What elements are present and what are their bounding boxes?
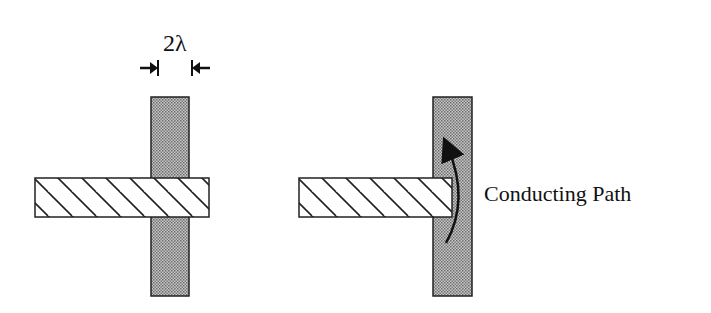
left-figure: [35, 60, 210, 296]
diagram-canvas: [0, 0, 711, 313]
right-horizontal-bar: [299, 178, 452, 217]
left-horizontal-bar: [35, 178, 209, 217]
right-figure: [299, 97, 472, 296]
dimension-label: 2λ: [163, 30, 187, 57]
conducting-path-label: Conducting Path: [484, 181, 631, 207]
dimension-arrows: [140, 60, 210, 76]
